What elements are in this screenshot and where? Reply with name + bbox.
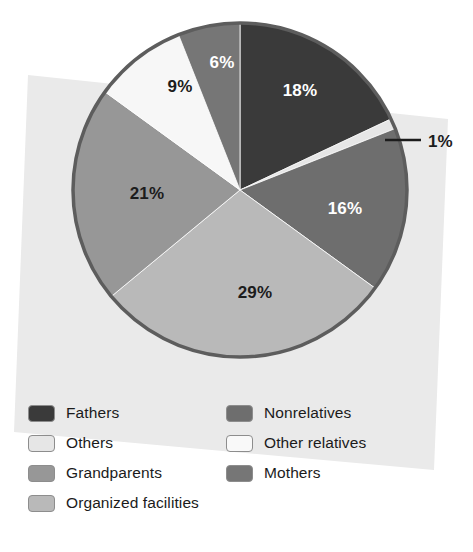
pie-chart: 1% 18%16%29%21%9%6% [0, 0, 473, 400]
legend-swatch [28, 435, 55, 452]
legend-swatch [226, 465, 253, 482]
legend-label: Nonrelatives [264, 404, 351, 422]
legend-item-fathers[interactable]: Fathers [28, 398, 218, 428]
legend-item-others[interactable]: Others [28, 428, 218, 458]
legend-label: Other relatives [264, 434, 366, 452]
pie-chart-figure: 1% 18%16%29%21%9%6% FathersNonrelativesO… [0, 0, 473, 552]
legend-label: Organized facilities [66, 494, 199, 512]
legend-swatch [226, 435, 253, 452]
slice-label-organized-facilities: 29% [238, 283, 273, 302]
slice-label-mothers: 6% [210, 53, 235, 72]
legend-label: Mothers [264, 464, 321, 482]
slice-label-nonrelatives: 16% [328, 199, 363, 218]
slice-callout-label-1: 1% [428, 132, 453, 151]
legend-swatch [28, 465, 55, 482]
legend-swatch [28, 405, 55, 422]
slice-label-fathers: 18% [283, 81, 318, 100]
legend-item-grandparents[interactable]: Grandparents [28, 458, 218, 488]
legend-swatch [28, 495, 55, 512]
legend-item-other-relatives[interactable]: Other relatives [226, 428, 416, 458]
legend-item-mothers[interactable]: Mothers [226, 458, 416, 488]
legend-swatch [226, 405, 253, 422]
legend-label: Fathers [66, 404, 119, 422]
legend-item-nonrelatives[interactable]: Nonrelatives [226, 398, 416, 428]
legend-label: Grandparents [66, 464, 162, 482]
chart-legend: FathersNonrelativesOthersOther relatives… [28, 398, 448, 518]
legend-item-organized-facilities[interactable]: Organized facilities [28, 488, 218, 518]
slice-label-grandparents: 21% [130, 184, 165, 203]
slice-label-other-relatives: 9% [168, 77, 193, 96]
legend-label: Others [66, 434, 113, 452]
